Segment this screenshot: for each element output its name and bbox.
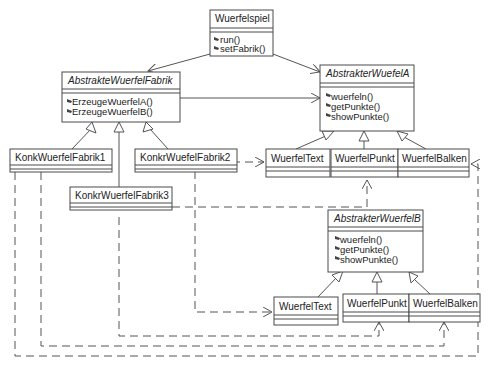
generalization-arrow-icon [114,122,124,132]
dependency-f3-punkt-a [172,180,367,207]
operation: showPunkte() [340,254,398,265]
class-konkr-wuerfel-fabrik-2[interactable]: KonkrWuefelFabrik2 [135,149,237,172]
class-name: KonkrWuerfelFabrik3 [75,190,169,201]
class-wuerfel-punkt-b[interactable]: WuerfelPunkt [343,294,409,322]
class-name: WuerfelPunkt [347,298,407,309]
class-name: AbstrakterWuefelA [325,68,410,79]
generalization-arrow-icon [86,122,96,133]
class-abstrakter-wuerfel-b[interactable]: AbstrakterWuerfelB wuerfeln() getPunkte(… [328,210,423,272]
generalization-arrow-icon [322,131,334,140]
generalization-line-b-balken [414,279,430,294]
generalization-line-b-text [318,277,337,297]
class-konk-wuerfel-fabrik-1[interactable]: KonkWuerfelFabrik1 [10,149,112,172]
operation: ErzeugeWuerfelB() [72,106,153,117]
class-abstrakte-wuerfel-fabrik[interactable]: AbstrakteWuerfelFabrik ErzeugeWuerfelA()… [62,72,180,122]
class-wuerfel-text-b[interactable]: WuerfelText [274,297,338,325]
generalization-arrow-icon [359,131,369,141]
class-name: WuerfelBalken [413,298,478,309]
class-wuerfelspiel[interactable]: Wuerfelspiel run() setFabrik() [210,10,273,56]
association-spiel-fabrik [148,54,210,71]
generalization-line-f2 [150,129,168,149]
operation: setFabrik() [220,43,265,54]
generalization-line-f1 [72,128,92,149]
class-abstrakter-wuerfel-a[interactable]: AbstrakterWuefelA wuerfeln() getPunkte()… [320,65,414,131]
class-name: WuerfelPunkt [335,153,395,164]
generalization-arrow-icon [372,272,382,282]
class-konkr-wuerfel-fabrik-3[interactable]: KonkrWuerfelFabrik3 [70,187,172,210]
association-spiel-wuerfelA [273,54,320,72]
operation: showPunkte() [331,111,389,122]
uml-class-diagram: Wuerfelspiel run() setFabrik() Abstrakte… [0,0,490,366]
class-wuerfel-balken-a[interactable]: WuerfelBalken [398,149,469,177]
class-wuerfel-balken-b[interactable]: WuerfelBalken [409,294,480,322]
class-name: AbstrakterWuerfelB [333,213,421,224]
class-wuerfel-text-a[interactable]: WuerfelText [266,149,330,177]
class-name: WuerfelText [279,301,332,312]
class-name: WuerfelBalken [402,153,467,164]
class-name: AbstrakteWuerfelFabrik [67,75,173,86]
generalization-line-a-balken [404,137,426,149]
generalization-line-a-text [296,135,328,149]
class-name: KonkrWuefelFabrik2 [140,152,231,163]
class-name: KonkWuerfelFabrik1 [15,152,106,163]
generalization-arrow-icon [397,131,408,141]
dependency-f2-text-b [195,171,272,312]
class-wuerfel-punkt-a[interactable]: WuerfelPunkt [331,149,398,177]
class-name: WuerfelText [271,153,324,164]
class-name: Wuerfelspiel [215,13,270,24]
